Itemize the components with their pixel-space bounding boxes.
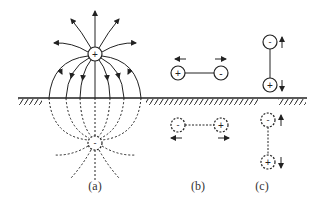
- panel-c-real-dipole: - +: [263, 35, 282, 92]
- image-method-diagram: + - + - - + - + - +: [0, 0, 322, 208]
- panel-b-real-dipole: + -: [171, 59, 228, 80]
- ground-plane: [18, 98, 307, 105]
- svg-text:+: +: [267, 80, 273, 91]
- panel-a-label: (a): [88, 179, 101, 194]
- panel-c-image-dipole: - +: [261, 113, 281, 169]
- svg-text:-: -: [267, 115, 270, 125]
- panel-a-image-charge: -: [88, 136, 102, 150]
- svg-text:+: +: [218, 120, 224, 131]
- panel-c-label: (c): [255, 179, 268, 194]
- panel-b-image-dipole: - +: [171, 118, 229, 138]
- svg-text:+: +: [175, 68, 181, 79]
- panel-a-real-charge: +: [88, 47, 102, 61]
- svg-text:-: -: [269, 37, 272, 47]
- charge-sign: -: [94, 138, 97, 148]
- panel-b-label: (b): [191, 179, 205, 194]
- svg-text:-: -: [177, 120, 180, 130]
- svg-text:-: -: [219, 68, 222, 79]
- svg-text:+: +: [265, 157, 271, 168]
- charge-sign: +: [92, 49, 98, 60]
